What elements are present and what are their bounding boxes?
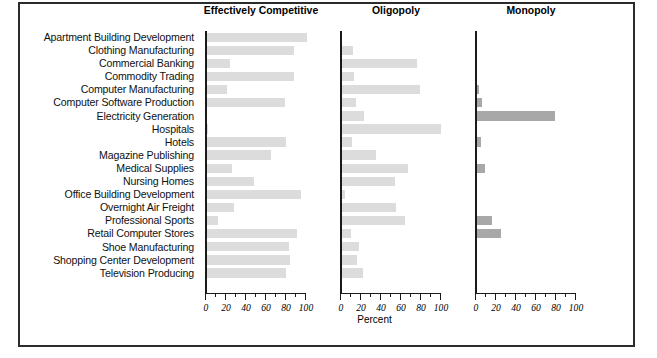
x-axis-minor-tick [235,293,236,297]
x-axis-title-wrapper: Percent [0,314,657,325]
category-label: Television Producing [22,267,194,280]
category-label: Hospitals [22,123,194,136]
bar-row [342,267,452,280]
bar-row [207,123,317,136]
bar [207,203,234,212]
bar [342,216,405,225]
bar [477,85,479,94]
x-axis-major-tick [535,293,536,300]
x-axis-major-tick [205,293,206,300]
bar-row [477,201,587,214]
bar-row [477,44,587,57]
bar [477,111,555,120]
x-axis-minor-tick [350,293,351,297]
bar [207,164,232,173]
bar-row [477,96,587,109]
x-axis-minor-tick [255,293,256,297]
bar-row [342,188,452,201]
bar [342,229,351,238]
bar [342,59,417,68]
bar-row [207,267,317,280]
bar-row [207,110,317,123]
x-axis-minor-tick [215,293,216,297]
bar [207,59,230,68]
category-label: Computer Software Production [22,96,194,109]
bar-row [207,31,317,44]
x-axis-minor-tick [525,293,526,297]
bar [342,164,408,173]
bar-row [477,227,587,240]
bar-row [207,162,317,175]
bar-row [207,254,317,267]
bar [342,242,359,251]
bar [207,124,208,133]
category-label: Magazine Publishing [22,149,194,162]
bar [342,124,441,133]
bar-row [342,162,452,175]
plot-area [340,31,452,293]
bar-series [477,31,587,293]
bar [207,216,218,225]
bar [342,203,396,212]
bar [207,177,254,186]
bar [207,268,286,277]
category-label: Hotels [22,136,194,149]
x-axis-major-tick [285,293,286,300]
bar [207,255,290,264]
x-axis-major-tick [305,293,306,300]
bar-row [207,70,317,83]
x-axis-major-tick [440,293,441,300]
category-label: Clothing Manufacturing [22,44,194,57]
bar [342,72,354,81]
bar-row [477,254,587,267]
bar-row [477,83,587,96]
bar-row [342,175,452,188]
bar [207,85,227,94]
bar-row [207,136,317,149]
bar [207,190,301,199]
x-axis-minor-tick [370,293,371,297]
bar [342,46,353,55]
x-axis-minor-tick [410,293,411,297]
bar-row [477,188,587,201]
x-axis-major-tick [420,293,421,300]
bar [477,137,481,146]
bar-row [207,227,317,240]
bar-row [342,123,452,136]
panel-title: Oligopoly [334,5,458,16]
bar-row [207,83,317,96]
bar-row [342,136,452,149]
bar-row [477,70,587,83]
category-label: Office Building Development [22,188,194,201]
category-label: Overnight Air Freight [22,201,194,214]
category-label: Medical Supplies [22,162,194,175]
category-label-list: Apartment Building DevelopmentClothing M… [22,31,194,280]
x-axis-minor-tick [545,293,546,297]
bar-row [477,136,587,149]
bar [207,137,286,146]
x-axis-tick-label: 100 [563,302,589,313]
category-label: Nursing Homes [22,175,194,188]
panel-title: Effectively Competitive [199,5,323,16]
bar-row [477,110,587,123]
bar-row [207,96,317,109]
bar-row [342,31,452,44]
x-axis-minor-tick [295,293,296,297]
bar-row [477,175,587,188]
bar-row [477,123,587,136]
x-axis-major-tick [475,293,476,300]
bar-row [342,70,452,83]
bar-row [207,241,317,254]
bar-row [342,110,452,123]
x-axis-tick-label: 100 [428,302,454,313]
bar-row [342,201,452,214]
bar [342,255,357,264]
x-axis-minor-tick [390,293,391,297]
bar-row [477,241,587,254]
bar-row [342,83,452,96]
panel-title: Monopoly [469,5,593,16]
bar [342,98,356,107]
bar-row [207,188,317,201]
bar [342,85,420,94]
bar-row [342,227,452,240]
